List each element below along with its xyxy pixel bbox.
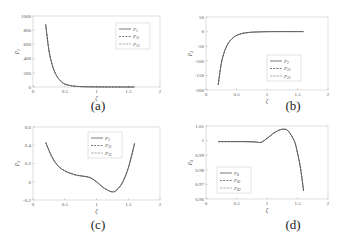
panel-b: 00.511.52-200-150-100-50050ζp2P2P21P22 (… <box>174 0 348 121</box>
panel-a: 00.511.5202004006008001000ζp1P1P11P12 (a… <box>0 0 174 121</box>
x-tick-label: 0 <box>32 89 35 94</box>
y-tick-label: 0 <box>29 180 32 185</box>
chart-b: 00.511.52-200-150-100-50050ζp2P2P21P22 <box>174 0 348 121</box>
panel-d: 00.511.520.960.970.980.9911.01ζp4P4P41P4… <box>174 121 348 242</box>
legend: P4P41P42 <box>217 167 251 193</box>
y-tick-label: 0.98 <box>195 168 204 173</box>
x-tick-label: 1.5 <box>294 201 301 206</box>
y-tick-label: -150 <box>195 73 205 78</box>
x-tick-label: 0.5 <box>62 89 69 94</box>
y-tick-label: 0.99 <box>195 153 204 158</box>
x-tick-label: 1 <box>95 202 98 207</box>
y-tick-label: 1.01 <box>195 124 204 129</box>
y-tick-label: -200 <box>195 88 205 93</box>
caption-d: (d) <box>273 217 313 233</box>
y-axis-label: p2 <box>186 51 194 57</box>
y-tick-label: 0.2 <box>25 161 32 166</box>
x-tick-label: 0 <box>205 201 208 206</box>
x-tick-label: 0.5 <box>62 202 69 207</box>
y-tick-label: 600 <box>24 42 32 47</box>
x-tick-label: 1 <box>266 92 269 97</box>
x-tick-label: 0.5 <box>233 92 240 97</box>
x-axis-label: ζ <box>95 208 98 215</box>
y-tick-label: 0.4 <box>25 143 32 148</box>
x-axis-label: ζ <box>266 98 269 105</box>
y-tick-label: 0.96 <box>195 197 204 202</box>
y-tick-label: -0.2 <box>23 198 31 203</box>
panel-c: 00.511.52-0.200.20.40.6ζp3P3P31P32 (c) <box>0 121 174 242</box>
x-axis-label: ζ <box>266 207 269 214</box>
x-tick-label: 1.5 <box>125 202 132 207</box>
y-tick-label: 0 <box>202 29 205 34</box>
y-tick-label: 50 <box>199 15 205 20</box>
legend: P1P11P12 <box>116 23 150 49</box>
y-axis-label: p1 <box>13 49 21 55</box>
y-axis-label: p4 <box>186 160 194 166</box>
caption-b: (b) <box>273 98 313 114</box>
x-tick-label: 2 <box>159 89 162 94</box>
legend: P3P31P32 <box>88 132 122 158</box>
y-tick-label: 1000 <box>21 14 32 19</box>
x-tick-label: 0 <box>32 202 35 207</box>
caption-c: (c) <box>78 217 118 233</box>
x-tick-label: 2 <box>327 201 330 206</box>
y-axis-label: p3 <box>13 161 21 167</box>
caption-a: (a) <box>78 98 118 114</box>
x-tick-label: 2 <box>327 92 330 97</box>
chart-d: 00.511.520.960.970.980.9911.01ζp4P4P41P4… <box>174 121 348 242</box>
y-tick-label: 200 <box>24 71 32 76</box>
y-tick-label: 800 <box>24 28 32 33</box>
legend: P2P21P22 <box>267 55 301 81</box>
x-tick-label: 1.5 <box>294 92 301 97</box>
y-tick-label: -100 <box>195 59 205 64</box>
y-tick-label: -50 <box>197 44 204 49</box>
x-tick-label: 1.5 <box>125 89 132 94</box>
x-tick-label: 0 <box>205 92 208 97</box>
x-tick-label: 2 <box>159 202 162 207</box>
y-tick-label: 0.6 <box>25 125 32 130</box>
x-tick-label: 1 <box>95 89 98 94</box>
x-tick-label: 0.5 <box>233 201 240 206</box>
y-tick-label: 0.97 <box>195 182 204 187</box>
y-tick-label: 400 <box>24 56 32 61</box>
x-tick-label: 1 <box>266 201 269 206</box>
y-tick-label: 1 <box>202 138 205 143</box>
